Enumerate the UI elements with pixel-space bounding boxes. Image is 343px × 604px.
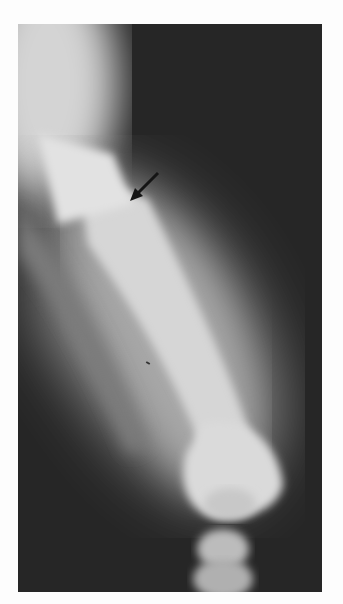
xray-drawing [18,24,322,592]
xray-image [18,24,322,592]
